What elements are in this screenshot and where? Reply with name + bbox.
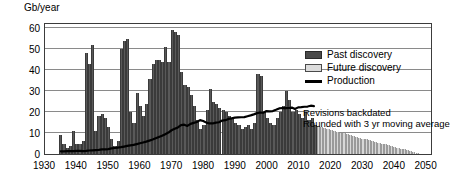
y-axis-tick-60: 60 xyxy=(29,24,40,34)
x-axis-tick-1960: 1960 xyxy=(128,160,150,171)
y-axis-tick-30: 30 xyxy=(29,87,40,97)
gridline-30 xyxy=(45,90,431,91)
x-axis-tick-2020: 2020 xyxy=(319,160,341,171)
chart-legend: Past discovery Future discovery Producti… xyxy=(305,48,401,87)
y-axis-tick-20: 20 xyxy=(29,108,40,118)
x-axis-tick-2000: 2000 xyxy=(255,160,277,171)
x-axis-tick-2050: 2050 xyxy=(415,160,437,171)
x-axis-tick-1970: 1970 xyxy=(160,160,182,171)
x-axis-tick-2040: 2040 xyxy=(383,160,405,171)
annotation-line-2: Rounded with 3 yr moving average xyxy=(303,118,450,129)
y-axis-tick-0: 0 xyxy=(34,150,40,160)
y-axis-unit-label: Gb/year xyxy=(24,2,60,13)
legend-label-past-discovery: Past discovery xyxy=(327,49,392,61)
legend-item-future-discovery: Future discovery xyxy=(305,61,401,74)
legend-swatch-production xyxy=(305,77,322,85)
chart-annotation: Revisions backdated Rounded with 3 yr mo… xyxy=(303,107,450,129)
plot-area xyxy=(44,23,432,155)
legend-item-production: Production xyxy=(305,74,401,87)
x-axis-tick-2010: 2010 xyxy=(287,160,309,171)
legend-swatch-past-discovery xyxy=(305,51,322,59)
x-axis-tick-1930: 1930 xyxy=(33,160,55,171)
annotation-line-1: Revisions backdated xyxy=(303,107,450,118)
y-axis-tick-10: 10 xyxy=(29,129,40,139)
legend-label-future-discovery: Future discovery xyxy=(327,62,401,74)
x-axis-tick-1940: 1940 xyxy=(65,160,87,171)
gridline-60 xyxy=(45,27,431,28)
x-axis-tick-1990: 1990 xyxy=(224,160,246,171)
x-axis-tick-1980: 1980 xyxy=(192,160,214,171)
y-axis-tick-40: 40 xyxy=(29,66,40,76)
bar-future-2047 xyxy=(416,153,419,154)
legend-item-past-discovery: Past discovery xyxy=(305,48,401,61)
legend-swatch-future-discovery xyxy=(305,64,322,72)
y-axis-tick-50: 50 xyxy=(29,45,40,55)
legend-label-production: Production xyxy=(327,75,375,87)
x-axis-tick-2030: 2030 xyxy=(351,160,373,171)
x-axis-tick-1950: 1950 xyxy=(96,160,118,171)
